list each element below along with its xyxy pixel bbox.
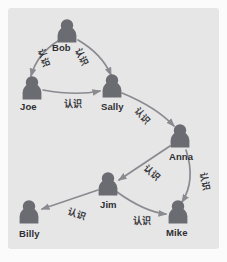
node-bob[interactable] (58, 19, 77, 42)
edge-label-joe-sally: 认识 (64, 97, 82, 110)
node-billy[interactable] (20, 200, 39, 223)
node-joe[interactable] (23, 76, 42, 99)
node-mike[interactable] (169, 200, 188, 223)
edge-jim-mike (117, 192, 166, 214)
edge-joe-sally (43, 90, 100, 93)
graph-svg (0, 0, 227, 262)
node-jim[interactable] (99, 172, 118, 195)
node-label-billy: Billy (19, 228, 40, 239)
node-label-joe: Joe (20, 101, 37, 112)
node-label-bob: Bob (52, 42, 71, 53)
node-label-sally: Sally (101, 101, 124, 112)
node-label-anna: Anna (169, 151, 193, 162)
social-network-diagram: Bob Joe Sally Anna Jim Mike Billy 认识 认识 … (0, 0, 227, 262)
edge-label-jim-mike: 认识 (133, 214, 151, 227)
node-sally[interactable] (103, 74, 122, 97)
node-label-jim: Jim (100, 199, 117, 210)
node-label-mike: Mike (166, 227, 188, 238)
node-anna[interactable] (171, 124, 190, 147)
